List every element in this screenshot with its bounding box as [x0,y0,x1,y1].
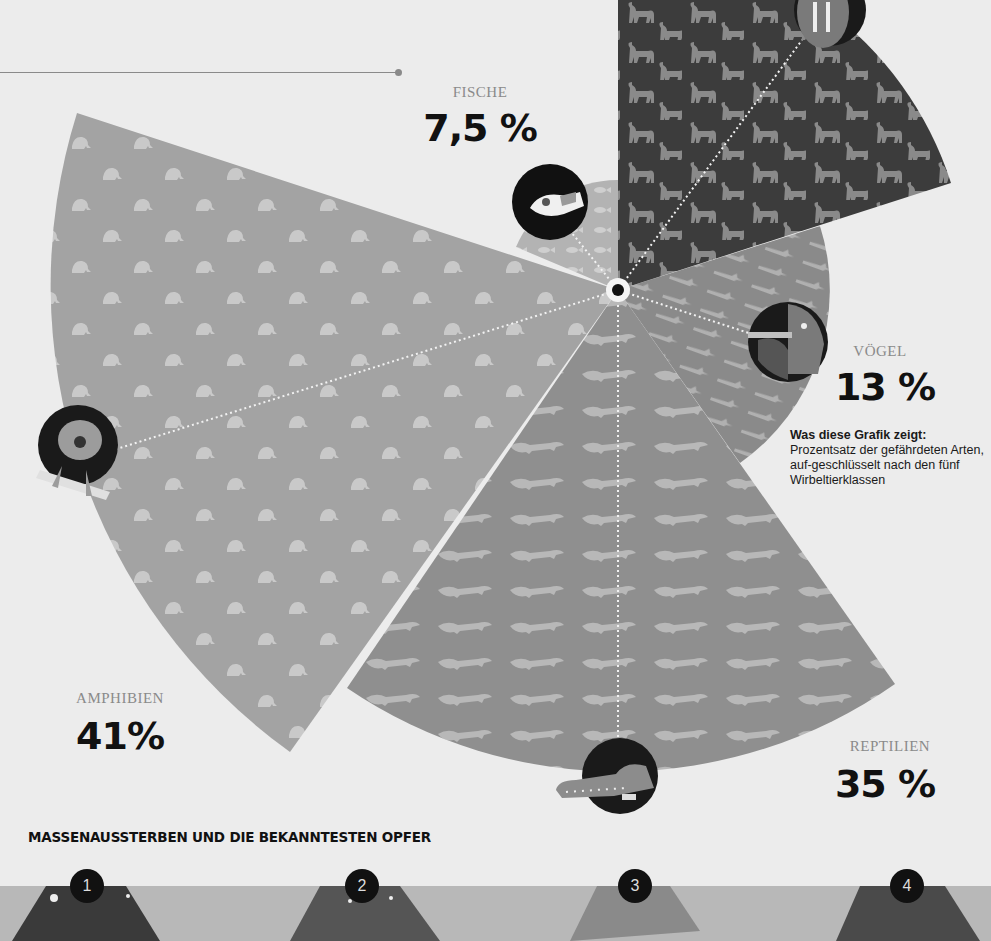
label-reptilien: REPTILIEN [810,738,970,755]
extinction-badge-1: 1 [70,869,104,903]
chart-description: Was diese Grafik zeigt: Prozentsatz der … [790,428,990,488]
section-title: MASSENAUSSTERBEN UND DIE BEKANNTESTEN OP… [28,829,431,845]
description-text: Prozentsatz der gefährdeten Arten, auf-g… [790,443,984,487]
fish-icon [512,164,588,240]
extinction-badge-3: 3 [618,869,652,903]
label-amphibien: AMPHIBIEN [40,690,200,707]
description-lead: Was diese Grafik zeigt: [790,428,926,442]
value-amphibien: 41% [40,714,200,758]
extinction-illustrations [0,886,991,941]
label-voegel: VÖGEL [830,343,930,360]
extinction-strip [0,886,991,941]
value-fische: 7,5 % [400,106,560,150]
extinction-badge-4: 4 [890,869,924,903]
value-reptilien: 35 % [800,762,970,806]
label-fische: FISCHE [420,84,540,101]
value-voegel: 13 % [810,365,960,409]
extinction-badge-2: 2 [345,869,379,903]
